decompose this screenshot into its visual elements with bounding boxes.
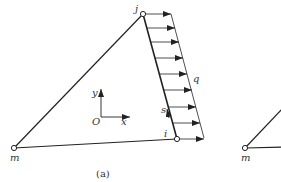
edge-i-j — [143, 14, 177, 139]
coord-s-label: s — [161, 104, 166, 115]
node-i-icon — [174, 136, 179, 141]
second-node-m-label: m — [241, 152, 250, 163]
coordinate-axes — [101, 89, 130, 117]
edge-m-i — [14, 139, 177, 148]
node-m-icon — [11, 145, 16, 150]
edge-m-j — [14, 14, 143, 148]
nodes — [11, 11, 179, 150]
second-node-m-icon — [242, 145, 247, 150]
node-i-label: i — [164, 128, 167, 139]
node-m-label: m — [10, 152, 19, 163]
load-q-label: q — [193, 73, 199, 84]
second-figure-partial — [242, 108, 281, 151]
triangle-element — [14, 14, 177, 148]
axis-origin-label: O — [92, 116, 100, 127]
figure-caption: (a) — [96, 168, 110, 179]
axis-y-label: y — [91, 87, 98, 98]
node-j-icon — [140, 11, 145, 16]
node-j-label: j — [133, 3, 138, 14]
axis-x-label: x — [121, 116, 127, 127]
diagram-canvas: j i m q s y O x (a) m — [0, 0, 281, 182]
